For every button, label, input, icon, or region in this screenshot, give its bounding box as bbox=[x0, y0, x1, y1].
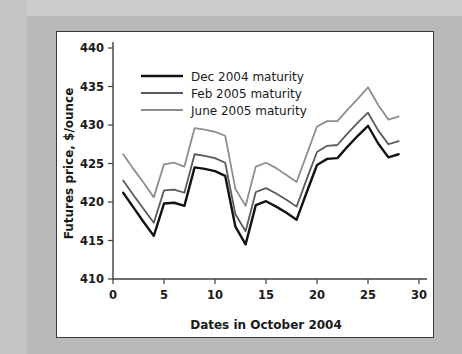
legend-label-2: June 2005 maturity bbox=[190, 104, 307, 118]
figure-root: 410415420425430435440051015202530Dates i… bbox=[0, 0, 462, 354]
y-tick-label-420: 420 bbox=[80, 195, 104, 209]
legend-label-1: Feb 2005 maturity bbox=[191, 87, 302, 101]
y-tick-label-415: 415 bbox=[80, 234, 104, 248]
x-tick-label-25: 25 bbox=[360, 288, 376, 302]
y-axis-title: Futures price, $/ounce bbox=[62, 88, 76, 240]
x-tick-label-30: 30 bbox=[411, 288, 427, 302]
legend-label-0: Dec 2004 maturity bbox=[191, 70, 304, 84]
y-tick-label-425: 425 bbox=[80, 157, 104, 171]
x-tick-label-20: 20 bbox=[309, 288, 325, 302]
y-tick-label-435: 435 bbox=[80, 80, 104, 94]
line-chart: 410415420425430435440051015202530Dates i… bbox=[57, 32, 432, 336]
chart-panel: 410415420425430435440051015202530Dates i… bbox=[56, 31, 434, 338]
x-axis-title: Dates in October 2004 bbox=[190, 318, 342, 332]
series-line-0 bbox=[123, 126, 398, 245]
x-tick-label-5: 5 bbox=[160, 288, 168, 302]
page-background-left-band bbox=[0, 0, 27, 354]
series-line-1 bbox=[123, 113, 398, 232]
y-tick-label-430: 430 bbox=[80, 118, 104, 132]
y-tick-label-410: 410 bbox=[80, 272, 104, 286]
x-tick-label-0: 0 bbox=[109, 288, 117, 302]
x-tick-label-15: 15 bbox=[258, 288, 274, 302]
page-background-top-band bbox=[0, 0, 462, 16]
y-tick-label-440: 440 bbox=[80, 41, 104, 55]
x-tick-label-10: 10 bbox=[207, 288, 223, 302]
